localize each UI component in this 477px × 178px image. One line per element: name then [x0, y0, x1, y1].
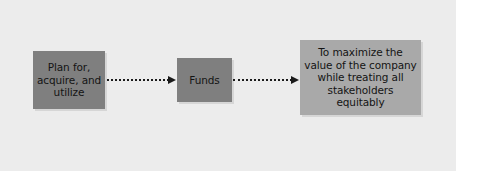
funds-box: Funds — [177, 58, 232, 102]
dotted-arrow-funds-to-goal — [233, 76, 299, 84]
arrowhead-icon — [291, 76, 299, 84]
dotted-line — [233, 79, 292, 81]
plan-box-label: Plan for, acquire, and utilize — [37, 61, 101, 99]
funds-box-label: Funds — [189, 74, 219, 87]
goal-box: To maximize the value of the company whi… — [300, 40, 421, 115]
diagram-panel: Plan for, acquire, and utilize Funds To … — [0, 0, 456, 171]
dotted-arrow-plan-to-funds — [107, 76, 176, 84]
dotted-line — [107, 79, 169, 81]
goal-box-label: To maximize the value of the company whi… — [304, 46, 416, 109]
arrowhead-icon — [168, 76, 176, 84]
plan-acquire-utilize-box: Plan for, acquire, and utilize — [33, 51, 105, 109]
